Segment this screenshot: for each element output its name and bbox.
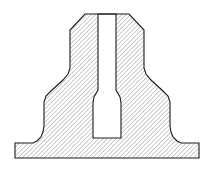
technical-drawing-canvas	[0, 0, 215, 170]
part-cross-section-drawing	[0, 0, 215, 170]
hatch-fill-region	[0, 0, 215, 170]
section-hatched-body	[0, 0, 215, 170]
